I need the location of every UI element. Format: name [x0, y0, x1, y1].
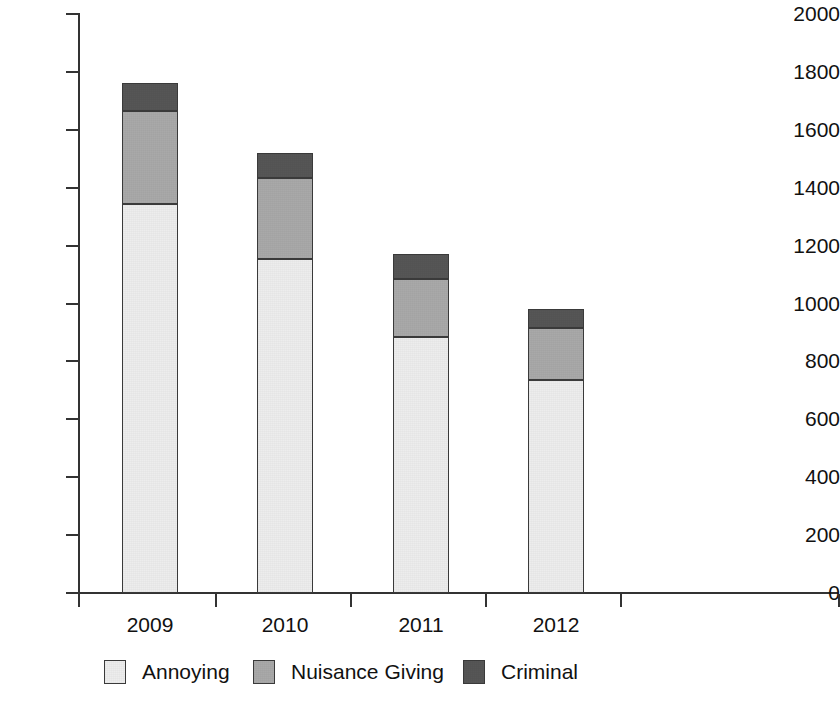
segment-texture [529, 310, 583, 327]
segment-texture [258, 260, 312, 592]
segment-texture [394, 280, 448, 336]
segment-texture [123, 112, 177, 203]
bar-segment-annoying [257, 259, 313, 593]
segment-texture [258, 179, 312, 258]
bar-segment-criminal [257, 153, 313, 178]
x-axis-tick-label: 2011 [353, 614, 489, 636]
y-axis-tick-label: 1600 [778, 119, 840, 140]
legend-swatch-icon [463, 660, 485, 684]
y-axis-tick [66, 534, 79, 536]
legend-item-nuisance-giving[interactable]: Nuisance Giving [253, 650, 444, 694]
bar-segment-nuisance-giving [393, 279, 449, 337]
legend-label: Criminal [501, 660, 578, 684]
y-axis-tick-label: 1800 [778, 61, 840, 82]
y-axis-tick [66, 476, 79, 478]
y-axis-tick-label: 0 [778, 582, 840, 603]
segment-texture [123, 205, 177, 592]
y-axis-tick [66, 13, 79, 15]
bar-segment-annoying [393, 337, 449, 593]
legend-label: Annoying [142, 660, 230, 684]
plot-area: 0200400600800100012001400160018002000 20… [0, 0, 840, 640]
legend-item-criminal[interactable]: Criminal [463, 650, 578, 694]
bar-2011 [393, 254, 449, 593]
y-axis-tick-label: 1000 [778, 293, 840, 314]
bar-segment-criminal [528, 309, 584, 328]
bar-segment-criminal [393, 254, 449, 279]
y-axis-tick [66, 303, 79, 305]
y-axis-tick-label: 2000 [778, 3, 840, 24]
y-axis-tick [66, 418, 79, 420]
y-axis-tick-label: 600 [778, 408, 840, 429]
bar-2009 [122, 83, 178, 593]
legend-item-annoying[interactable]: Annoying [104, 650, 230, 694]
x-axis-line [78, 592, 838, 594]
segment-texture [123, 84, 177, 110]
segment-texture [529, 381, 583, 592]
swatch-texture [254, 661, 274, 683]
x-axis-tick [485, 594, 487, 607]
y-axis-tick-label: 400 [778, 466, 840, 487]
swatch-texture [105, 661, 125, 683]
y-axis-tick [66, 360, 79, 362]
x-axis-tick [350, 594, 352, 607]
y-axis-tick [66, 187, 79, 189]
x-axis-tick [620, 594, 622, 607]
bar-segment-annoying [528, 380, 584, 593]
y-axis-tick [66, 129, 79, 131]
x-axis-tick-label: 2012 [488, 614, 624, 636]
bar-2012 [528, 309, 584, 593]
legend-swatch-icon [253, 660, 275, 684]
bar-segment-criminal [122, 83, 178, 111]
y-axis-tick-label: 1400 [778, 177, 840, 198]
stacked-bar-chart: 0200400600800100012001400160018002000 20… [0, 0, 840, 702]
x-axis-tick-label: 2010 [217, 614, 353, 636]
segment-texture [258, 154, 312, 177]
legend-label: Nuisance Giving [291, 660, 444, 684]
x-axis-tick [215, 594, 217, 607]
segment-texture [394, 255, 448, 278]
bar-segment-nuisance-giving [257, 178, 313, 259]
bar-segment-nuisance-giving [122, 111, 178, 204]
y-axis-tick [66, 245, 79, 247]
y-axis-tick [66, 71, 79, 73]
y-axis-tick-label: 200 [778, 524, 840, 545]
y-axis-tick-label: 1200 [778, 235, 840, 256]
chart-legend: AnnoyingNuisance GivingCriminal [0, 650, 840, 702]
legend-swatch-icon [104, 660, 126, 684]
x-axis-tick [78, 594, 80, 607]
bar-segment-annoying [122, 204, 178, 593]
segment-texture [529, 329, 583, 379]
y-axis-tick-label: 800 [778, 350, 840, 371]
swatch-texture [464, 661, 484, 683]
x-axis-tick-label: 2009 [82, 614, 218, 636]
segment-texture [394, 338, 448, 592]
bar-2010 [257, 153, 313, 593]
bar-segment-nuisance-giving [528, 328, 584, 380]
